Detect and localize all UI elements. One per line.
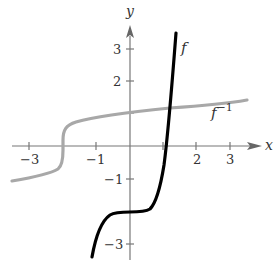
f-inverse-superscript: −1 [217,101,233,114]
function-inverse-plot: y x −3 −1 2 3 3 2 −1 −3 f f−1 [0,0,275,269]
x-axis [12,142,262,150]
y-tick-label-2: 2 [113,74,121,89]
x-tick-label-m3: −3 [20,152,39,167]
y-tick-label-m3: −3 [104,237,123,252]
f-inverse-label: f−1 [210,101,233,122]
y-axis-label: y [125,3,135,19]
y-tick-label-3: 3 [113,42,121,57]
x-tick-label-3: 3 [226,152,234,167]
x-axis-label: x [265,137,273,153]
f-label: f [180,39,189,57]
x-tick-label-m1: −1 [86,152,105,167]
y-axis [126,25,134,260]
y-tick-label-m1: −1 [104,172,123,187]
x-tick-label-2: 2 [193,152,201,167]
